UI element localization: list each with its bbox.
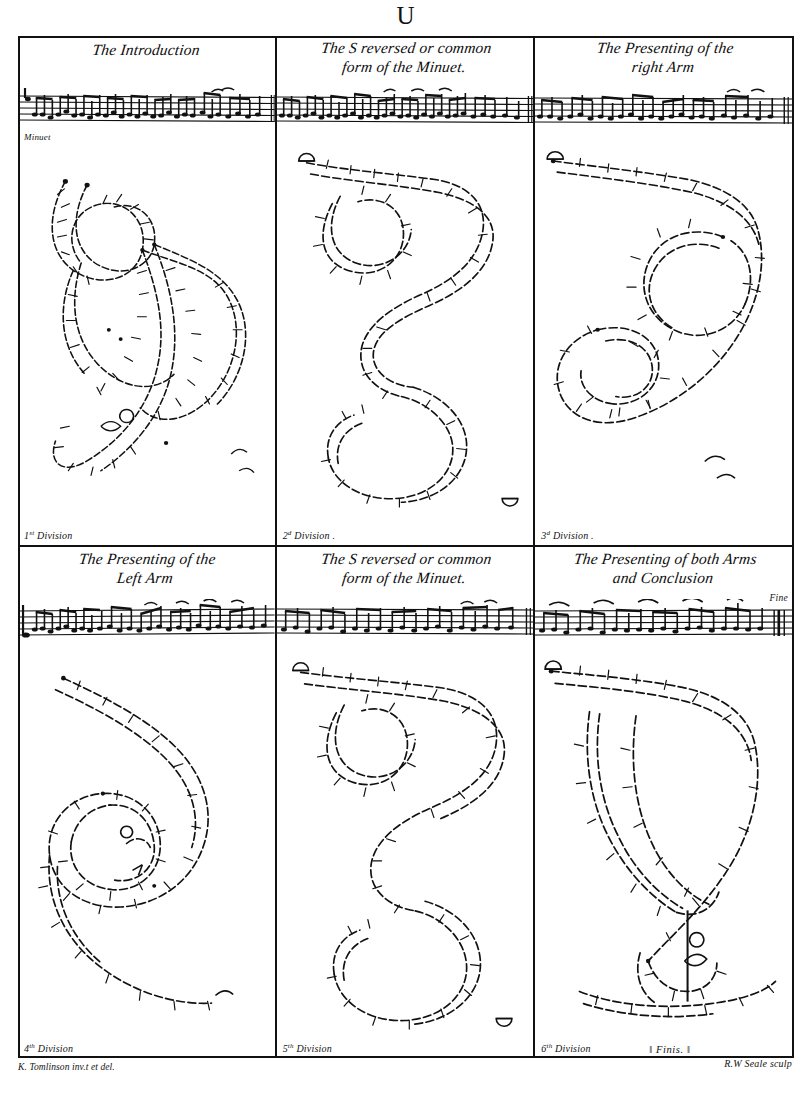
panel-1-tempo-mark: Minuet <box>24 132 51 142</box>
panel-6-dance-track <box>535 657 794 1032</box>
panel-1-music-staff <box>18 86 275 130</box>
panel-2-title-line-2: form of the Minuet. <box>280 57 527 76</box>
panel-1-introduction[interactable]: The Introduction <box>18 36 277 547</box>
panel-6-music-staff <box>535 599 794 643</box>
panel-4-title: The Presenting of the Left Arm <box>18 549 277 587</box>
panel-6-division-label: 6th Division <box>541 1042 590 1054</box>
panel-5-music-staff <box>277 599 534 643</box>
panel-3-dance-track <box>535 148 794 519</box>
panel-2-dance-track <box>277 148 534 519</box>
notation-plate-grid: The Introduction <box>18 36 794 1058</box>
panel-2-music-staff <box>277 86 534 130</box>
panel-3-music-staff <box>535 86 794 130</box>
panel-6-finis-mark: ‖ Finis. ‖ <box>649 1044 690 1055</box>
panel-2-division-label: 2d Division . <box>283 529 336 541</box>
panel-6-title: The Presenting of both Arms and Conclusi… <box>535 549 794 587</box>
panel-3-title: The Presenting of the right Arm <box>535 38 794 76</box>
panel-4-dance-track <box>18 657 275 1032</box>
panel-1-dance-track <box>18 148 275 519</box>
panel-2-title: The S reversed or common form of the Min… <box>277 38 536 76</box>
panel-1-division-label: 1st Division <box>24 529 72 541</box>
panel-3-right-arm[interactable]: The Presenting of the right Arm <box>535 36 794 547</box>
panel-5-division-label: 5th Division <box>283 1042 332 1054</box>
panel-5-title-line-1: The S reversed or common <box>283 549 530 568</box>
panel-4-left-arm[interactable]: The Presenting of the Left Arm <box>18 547 277 1058</box>
author-credit: K. Tomlinson inv.t et del. <box>18 1062 115 1072</box>
panel-4-title-line-1: The Presenting of the <box>24 549 271 568</box>
panel-5-title-line-2: form of the Minuet. <box>280 568 527 587</box>
panel-6-title-line-1: The Presenting of both Arms <box>541 549 790 568</box>
panel-3-title-line-2: right Arm <box>539 57 788 76</box>
panel-4-title-line-2: Left Arm <box>22 568 269 587</box>
panel-5-title: The S reversed or common form of the Min… <box>277 549 536 587</box>
panel-4-division-label: 4th Division <box>24 1042 73 1054</box>
panel-1-title: The Introduction <box>18 40 276 59</box>
panel-2-s-reversed[interactable]: The S reversed or common form of the Min… <box>277 36 536 547</box>
panel-6-title-line-2: and Conclusion <box>539 568 788 587</box>
panel-5-s-reversed[interactable]: The S reversed or common form of the Min… <box>277 547 536 1058</box>
panel-3-division-label: 3d Division . <box>541 529 594 541</box>
panel-5-dance-track <box>277 657 534 1032</box>
engraver-credit: R.W Seale sculp <box>724 1058 792 1069</box>
panel-4-music-staff <box>18 599 275 643</box>
plate-letter: U <box>0 2 812 30</box>
panel-6-both-arms-conclusion[interactable]: The Presenting of both Arms and Conclusi… <box>535 547 794 1058</box>
panel-3-title-line-1: The Presenting of the <box>541 38 790 57</box>
panel-2-title-line-1: The S reversed or common <box>283 38 530 57</box>
